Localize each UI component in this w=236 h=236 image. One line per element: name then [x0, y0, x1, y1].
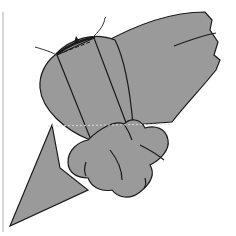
wire-top [93, 17, 106, 37]
illustration [0, 0, 236, 236]
illustration-canvas [0, 0, 236, 236]
